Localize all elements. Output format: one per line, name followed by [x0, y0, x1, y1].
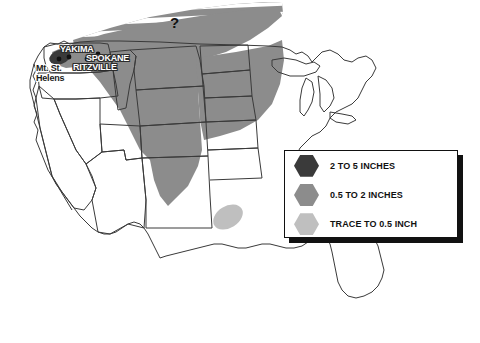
- city-label-ritzville: RITZVILLE: [73, 62, 117, 72]
- dot-mt-st-helens: [57, 57, 62, 62]
- legend-label-trace-to-half-inch: TRACE TO 0.5 INCH: [330, 219, 417, 229]
- legend-swatch-half-to-2-inches: [294, 184, 319, 206]
- dot-yakima: [67, 55, 72, 60]
- legend-label-half-to-2-inches: 0.5 TO 2 INCHES: [330, 190, 403, 200]
- legend-row-trace: TRACE TO 0.5 INCH: [285, 210, 457, 239]
- volcano-label-mount-st-helens: Mt. St. Helens: [36, 63, 70, 83]
- legend-swatch-2-to-5-inches: [294, 155, 319, 177]
- uncertainty-question-mark: ?: [170, 14, 179, 31]
- legend-swatch-trace-to-half-inch: [294, 213, 319, 235]
- legend-row-heavy: 2 TO 5 INCHES: [285, 151, 457, 180]
- legend-label-2-to-5-inches: 2 TO 5 INCHES: [330, 161, 395, 171]
- ashfall-thickness-legend: 2 TO 5 INCHES 0.5 TO 2 INCHES TRACE TO 0…: [284, 150, 458, 238]
- legend-row-medium: 0.5 TO 2 INCHES: [285, 180, 457, 209]
- ashfall-map: YAKIMA SPOKANE RITZVILLE Mt. St. Helens …: [0, 0, 480, 343]
